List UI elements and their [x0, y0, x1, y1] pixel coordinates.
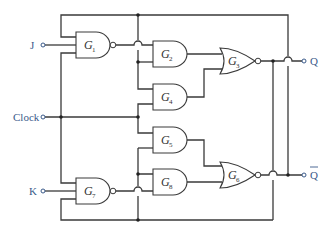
g4-output-wire	[187, 69, 222, 97]
g3-output-wire	[258, 57, 302, 61]
g1-clock-wire	[61, 53, 76, 117]
junction-dot	[136, 218, 140, 222]
gate-g4: G 4	[153, 84, 187, 110]
output-q: Q	[302, 55, 318, 67]
svg-text:4: 4	[169, 98, 173, 106]
svg-text:2: 2	[169, 55, 173, 63]
svg-text:5: 5	[169, 141, 173, 149]
g4-clock-input	[138, 104, 153, 117]
g5-clock-input	[138, 117, 153, 133]
svg-text:6: 6	[236, 176, 240, 184]
g8-top-input	[138, 148, 153, 174]
junction-dot	[136, 13, 140, 17]
gate-g3: G 3	[220, 48, 261, 74]
svg-text:1: 1	[92, 46, 96, 54]
terminal-icon	[41, 115, 45, 119]
g7-output-wire	[116, 187, 153, 191]
gate-g7: G 7	[76, 178, 116, 204]
gate-g8: G 8	[153, 169, 187, 195]
junction-dot	[136, 172, 140, 176]
svg-text:J: J	[30, 39, 35, 51]
junction-dot	[136, 115, 140, 119]
inverter-bubble	[255, 58, 261, 64]
terminal-icon	[41, 43, 45, 47]
circuit-diagram: G 1 G 7 G 2 G 4 G 5 G 8 G 3	[0, 0, 335, 237]
inverter-bubble	[110, 188, 116, 194]
svg-text:Q: Q	[310, 55, 318, 67]
gate-g1: G 1	[76, 32, 116, 58]
g6-output-wire	[258, 171, 302, 175]
input-k: K	[29, 185, 45, 197]
svg-text:8: 8	[169, 183, 173, 191]
svg-text:Q: Q	[310, 169, 318, 181]
g1-output-wire	[116, 41, 153, 45]
junction-dot	[136, 60, 140, 64]
gate-g2: G 2	[153, 41, 187, 67]
svg-text:3: 3	[236, 62, 240, 70]
junction-dot	[286, 173, 290, 177]
input-j: J	[30, 39, 45, 51]
g4-top-input	[138, 62, 153, 89]
inverter-bubble	[255, 172, 261, 178]
svg-text:K: K	[29, 185, 37, 197]
inverter-bubble	[110, 42, 116, 48]
junction-dot	[59, 115, 63, 119]
svg-text:7: 7	[92, 192, 96, 200]
terminal-icon	[41, 189, 45, 193]
g5-output-wire	[187, 140, 222, 166]
gate-g6: G 6	[220, 162, 261, 188]
svg-text:Clock: Clock	[13, 111, 40, 123]
terminal-icon	[302, 173, 306, 177]
output-q-bar: Q	[302, 167, 318, 181]
g7-clock-wire	[61, 117, 76, 183]
terminal-icon	[302, 59, 306, 63]
junction-dot	[271, 59, 275, 63]
gate-g5: G 5	[153, 127, 187, 153]
input-clock: Clock	[13, 111, 45, 123]
